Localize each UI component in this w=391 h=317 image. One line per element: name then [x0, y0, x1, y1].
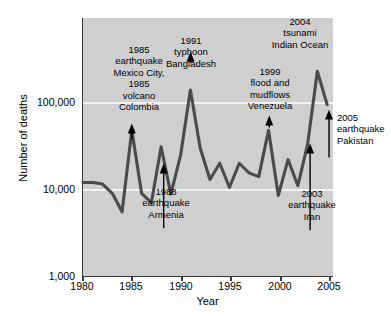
annotation-line: 1991 — [155, 35, 227, 46]
annotation-line: typhoon — [155, 46, 227, 57]
annotation-arrow-venezuela — [265, 116, 273, 128]
annotation-line: 2003 — [271, 188, 353, 199]
annotation-line: flood and — [230, 77, 310, 88]
annotation-indian-ocean: 2004 tsunami Indian Ocean — [259, 16, 341, 50]
annotation-line: Bangladesh — [155, 58, 227, 69]
y-tick-label: 10,000 — [43, 184, 79, 195]
y-tick-100000: 100,000 — [1, 97, 79, 108]
y-axis-ticks: 100,000 10,000 1,000 — [0, 0, 79, 317]
annotation-line: earthquake — [125, 197, 207, 208]
annotation-line: 2004 — [259, 16, 341, 27]
y-tick-label: 100,000 — [37, 97, 79, 108]
x-tick-2005: 2005 — [309, 280, 349, 292]
annotation-line: 1985 — [91, 78, 187, 89]
annotation-line: earthquake — [271, 199, 353, 210]
annotation-line: volcano — [91, 90, 187, 101]
annotation-line: Pakistan — [337, 135, 391, 146]
annotation-pakistan: 2005 earthquake Pakistan — [337, 112, 391, 146]
chart-figure: 100,000 10,000 1,000 Number of deaths — [0, 0, 391, 317]
x-tick-1995: 1995 — [210, 280, 250, 292]
annotation-line: 1988 — [125, 186, 207, 197]
x-tick-1980: 1980 — [62, 280, 102, 292]
annotation-line: 1999 — [230, 66, 310, 77]
annotation-arrow-pakistan — [325, 110, 333, 158]
annotation-venezuela: 1999 flood and mudflows Venezuela — [230, 66, 310, 112]
plot-area: 1985 earthquake Mexico City, 1985 volcan… — [82, 18, 333, 277]
annotation-line: Indian Ocean — [259, 39, 341, 50]
annotation-line: Armenia — [125, 209, 207, 220]
annotation-line: Colombia — [91, 101, 187, 112]
x-axis-title: Year — [82, 295, 333, 307]
y-tick-10000: 10,000 — [1, 184, 79, 195]
annotation-line: mudflows — [230, 89, 310, 100]
y-axis-title: Number of deaths — [17, 68, 29, 208]
annotation-line: 2005 — [337, 112, 391, 123]
annotation-line: tsunami — [259, 27, 341, 38]
x-tick-2000: 2000 — [260, 280, 300, 292]
annotation-iran: 2003 earthquake Iran — [271, 188, 353, 222]
annotation-armenia: 1988 earthquake Armenia — [125, 186, 207, 220]
annotation-line: earthquake — [337, 123, 391, 134]
annotation-line: Venezuela — [230, 100, 310, 111]
annotation-bangladesh: 1991 typhoon Bangladesh — [155, 35, 227, 69]
annotation-arrow-mexico-colombia — [128, 124, 136, 140]
x-tick-1985: 1985 — [111, 280, 151, 292]
annotation-line: Iran — [271, 211, 353, 222]
x-tick-1990: 1990 — [161, 280, 201, 292]
